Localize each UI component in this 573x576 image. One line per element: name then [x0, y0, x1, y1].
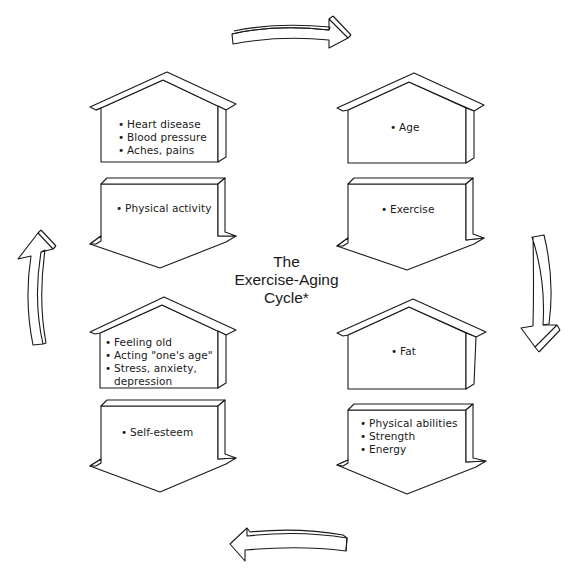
house-bottom-right-text: Fat	[391, 345, 416, 358]
list-item: Aches, pains	[118, 144, 207, 157]
list-item-continuation: depression	[105, 375, 213, 388]
house-shape-bottom-right	[337, 299, 486, 389]
list-item: Exercise	[381, 203, 435, 216]
house-shape-top-right	[337, 73, 484, 163]
arrow-top-left-text: Physical activity	[116, 202, 211, 215]
list-item: Energy	[360, 443, 458, 456]
list-item: Age	[390, 121, 420, 134]
title-line-3: Cycle*	[200, 289, 373, 307]
title-line-1: The	[200, 253, 373, 271]
list-item: Acting "one's age"	[105, 349, 213, 362]
list-item: Physical activity	[116, 202, 211, 215]
list-item: Strength	[360, 430, 458, 443]
list-item: Feeling old	[105, 336, 213, 349]
cycle-arrow-left-icon	[230, 528, 347, 561]
list-item: Self-esteem	[121, 426, 193, 439]
cycle-arrow-up-icon	[18, 230, 56, 345]
cycle-arrow-right-icon	[232, 16, 351, 48]
house-top-left-text: Heart disease Blood pressure Aches, pain…	[118, 118, 207, 157]
list-item: Heart disease	[118, 118, 207, 131]
list-item: Physical abilities	[360, 417, 458, 430]
arrow-bottom-right-text: Physical abilities Strength Energy	[360, 417, 458, 456]
house-bottom-left-text: Feeling old Acting "one's age" Stress, a…	[105, 336, 213, 388]
down-arrow-shape-bottom-left	[90, 400, 236, 492]
list-item: Fat	[391, 345, 416, 358]
arrow-bottom-left-text: Self-esteem	[121, 426, 193, 439]
house-top-right-text: Age	[390, 121, 420, 134]
list-item: Stress, anxiety,	[105, 362, 213, 375]
diagram-title: The Exercise-Aging Cycle*	[200, 253, 373, 307]
list-item: Blood pressure	[118, 131, 207, 144]
arrow-top-right-text: Exercise	[381, 203, 435, 216]
cycle-arrow-down-icon	[521, 235, 560, 352]
title-line-2: Exercise-Aging	[200, 271, 373, 289]
